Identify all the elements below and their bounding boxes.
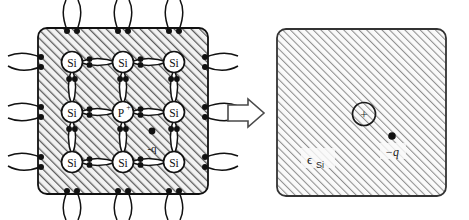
transform-arrow xyxy=(228,99,264,127)
atom-label: Si xyxy=(169,107,179,119)
atom-si-0-2: Si xyxy=(164,52,185,73)
atom-si-2-0: Si xyxy=(62,152,83,173)
semiconductor-donor-diagram: Si Si Si Si P + Si xyxy=(0,0,469,220)
atom-label: Si xyxy=(67,157,77,169)
atom-si-1-2: Si xyxy=(164,102,185,123)
atom-label: Si xyxy=(169,57,179,69)
silicon-lattice-panel: Si Si Si Si P + Si xyxy=(8,0,238,220)
donor-atom-label: P xyxy=(118,107,124,119)
atom-label: Si xyxy=(67,107,77,119)
free-electron-label: -q xyxy=(147,142,157,154)
atom-si-2-1: Si xyxy=(113,152,134,173)
atom-si-1-0: Si xyxy=(62,102,83,123)
atom-donor-p: P + xyxy=(113,102,134,123)
electron-dot xyxy=(388,132,396,140)
permittivity-symbol: ϵ xyxy=(307,152,312,167)
atom-label: Si xyxy=(169,157,179,169)
lattice-atoms: Si Si Si Si P + Si xyxy=(62,52,185,173)
donor-ion-label: + xyxy=(360,107,367,122)
electron-charge-label: −q xyxy=(385,145,399,159)
atom-si-0-1: Si xyxy=(113,52,134,73)
atom-label: Si xyxy=(118,57,128,69)
free-electron-dot xyxy=(149,128,156,135)
donor-charge-superscript: + xyxy=(126,103,131,112)
atom-label: Si xyxy=(118,157,128,169)
atom-si-0-0: Si xyxy=(62,52,83,73)
atom-label: Si xyxy=(67,57,77,69)
atom-si-2-2: Si xyxy=(164,152,185,173)
permittivity-label: ϵ Si xyxy=(301,148,335,170)
permittivity-subscript: Si xyxy=(316,160,324,170)
continuum-model-panel: ϵ Si + −q xyxy=(277,29,446,196)
